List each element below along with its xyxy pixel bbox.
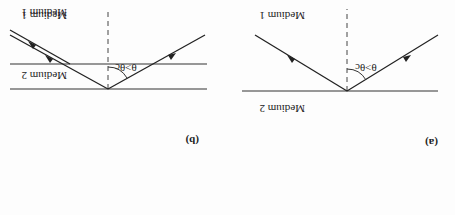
reflected-ray-a — [255, 35, 347, 91]
panel-a: θ>θc Medium 2 Medium 1 (a) — [242, 9, 438, 149]
medium-1-label-a: Medium 1 — [259, 10, 305, 22]
panel-b: θ>θc Medium 2 Medium 1 (b) — [10, 9, 207, 147]
angle-condition-b: θ>θc — [115, 62, 137, 74]
medium-2-label-a: Medium 2 — [259, 103, 305, 115]
medium-2-label-b: Medium 2 — [21, 70, 67, 82]
tir-diagram: θ>θc Medium 2 Medium 1 (a) — [0, 0, 455, 215]
diagram-stage: θ>θc Medium 2 Medium 1 (a) — [0, 0, 455, 215]
incident-ray-b — [108, 35, 205, 89]
panel-label-b: (b) — [185, 134, 199, 147]
transmitted-ray-b — [10, 30, 70, 64]
angle-condition-a: θ>θc — [355, 62, 377, 74]
arrow-icon — [168, 53, 176, 60]
panel-label-a: (a) — [425, 136, 438, 149]
medium-1-label-b-top-text: Medium 1 — [21, 7, 67, 19]
